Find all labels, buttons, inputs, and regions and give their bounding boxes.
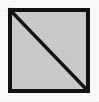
- square-with-diagonal-figure: [0, 0, 99, 102]
- figure-container: A black-outlined square filled with ligh…: [0, 0, 99, 102]
